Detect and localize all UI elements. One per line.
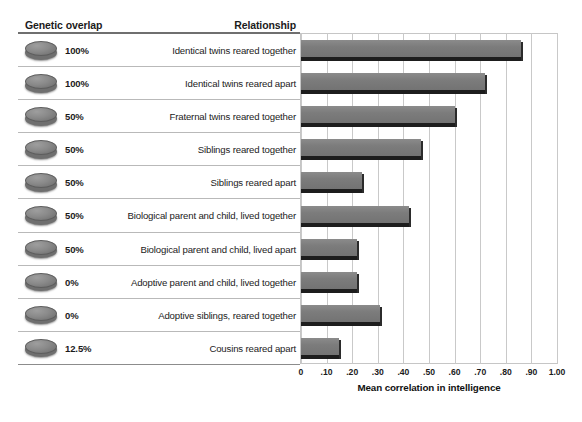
genetic-disc-icon (24, 239, 58, 260)
x-tick-label: 1.00 (549, 367, 566, 377)
table-row: 100%Identical twins reared together (18, 34, 300, 67)
relationship-label: Siblings reared apart (211, 177, 296, 188)
table-row: 50%Siblings reared together (18, 133, 300, 166)
x-tick-label: .30 (372, 367, 384, 377)
genetic-overlap-value: 50% (65, 144, 84, 155)
x-tick-label: .50 (423, 367, 435, 377)
genetic-overlap-value: 0% (65, 277, 79, 288)
x-tick-label: .10 (321, 367, 333, 377)
relationship-label: Fraternal twins reared together (169, 111, 296, 122)
relationship-label: Biological parent and child, lived apart (140, 244, 296, 255)
relationship-label: Identical twins reared together (172, 45, 296, 56)
x-tick-label: .90 (525, 367, 537, 377)
genetic-overlap-value: 50% (65, 210, 84, 221)
relationship-label: Adoptive parent and child, lived togethe… (131, 277, 296, 288)
bar (301, 40, 521, 57)
genetic-disc-icon (24, 41, 58, 62)
bar (301, 239, 357, 256)
table-header: Genetic overlap Relationship (18, 8, 300, 34)
x-tick-label: .20 (346, 367, 358, 377)
x-tick-label: .40 (397, 367, 409, 377)
bar-row (301, 199, 557, 232)
bar-row (301, 132, 557, 165)
x-axis-title: Mean correlation in intelligence (300, 382, 558, 393)
genetic-disc-icon (24, 140, 58, 161)
bar-row (301, 265, 557, 298)
relationship-label: Adoptive siblings, reared together (158, 310, 296, 321)
bar-row (301, 33, 557, 66)
genetic-disc-icon (24, 107, 58, 128)
bar (301, 338, 339, 355)
x-tick-label: .70 (474, 367, 486, 377)
genetic-disc-icon (24, 74, 58, 95)
genetic-overlap-value: 50% (65, 177, 84, 188)
table-row: 50%Biological parent and child, lived ap… (18, 233, 300, 266)
bar-row (301, 232, 557, 265)
bar-row (301, 331, 557, 364)
genetic-disc-icon (24, 272, 58, 293)
relationship-label: Identical twins reared apart (185, 78, 296, 89)
genetic-disc-icon (24, 173, 58, 194)
bar (301, 139, 421, 156)
bar (301, 206, 409, 223)
bar-row (301, 66, 557, 99)
bar-row (301, 165, 557, 198)
relationship-label: Biological parent and child, lived toget… (128, 210, 296, 221)
bar (301, 172, 362, 189)
bar-row (301, 298, 557, 331)
genetic-overlap-intelligence-figure: Genetic overlap Relationship 100%Identic… (0, 0, 582, 422)
bar (301, 106, 455, 123)
x-tick-label: .60 (449, 367, 461, 377)
table-row: 50%Siblings reared apart (18, 166, 300, 199)
x-tick-label: 0 (299, 367, 304, 377)
bar (301, 305, 380, 322)
table-row: 0%Adoptive siblings, reared together (18, 299, 300, 332)
table-row: 50%Fraternal twins reared together (18, 100, 300, 133)
relationship-table: Genetic overlap Relationship 100%Identic… (18, 8, 300, 368)
genetic-disc-icon (24, 338, 58, 359)
bar (301, 73, 485, 90)
table-row: 12.5%Cousins reared apart (18, 332, 300, 365)
genetic-overlap-value: 0% (65, 310, 79, 321)
bar-chart-plot-area (300, 33, 564, 366)
x-tick-label: .80 (500, 367, 512, 377)
genetic-overlap-value: 50% (65, 111, 84, 122)
table-row: 100%Identical twins reared apart (18, 67, 300, 100)
table-row: 50%Biological parent and child, lived to… (18, 199, 300, 232)
relationship-label: Cousins reared apart (209, 343, 296, 354)
column-header-relationship: Relationship (234, 19, 296, 31)
genetic-overlap-value: 50% (65, 244, 84, 255)
genetic-overlap-value: 12.5% (65, 343, 91, 354)
genetic-disc-icon (24, 305, 58, 326)
bar (301, 272, 357, 289)
relationship-label: Siblings reared together (198, 144, 296, 155)
bar-row (301, 99, 557, 132)
table-row: 0%Adoptive parent and child, lived toget… (18, 266, 300, 299)
column-header-genetic-overlap: Genetic overlap (25, 19, 102, 31)
table-body: 100%Identical twins reared together100%I… (18, 34, 300, 365)
gridline (557, 33, 558, 364)
genetic-overlap-value: 100% (65, 78, 89, 89)
genetic-overlap-value: 100% (65, 45, 89, 56)
genetic-disc-icon (24, 206, 58, 227)
